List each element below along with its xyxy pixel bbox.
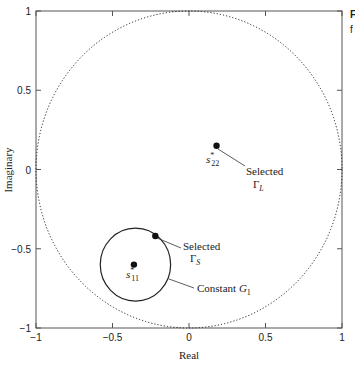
- clipped-margin-text-2: f: [350, 24, 353, 35]
- gamma-subscript: S: [196, 258, 200, 267]
- x-axis-label: Real: [179, 349, 199, 361]
- constant-word: Constant: [197, 282, 239, 294]
- marks: [36, 11, 342, 328]
- y-tick-label: 0.5: [17, 85, 31, 96]
- annotation-gamma-s-line1: Selected: [183, 240, 221, 252]
- leader-line-constant-g1: [169, 279, 194, 288]
- x-tick-label: 1: [339, 332, 345, 343]
- gamma-subscript: L: [258, 184, 264, 193]
- s22-subscript: 22: [211, 159, 219, 168]
- y-tick-label: 0: [25, 165, 31, 176]
- x-tick-label: 0.5: [259, 332, 273, 343]
- plot-frame: [36, 11, 342, 328]
- clipped-margin-text-1: F: [350, 9, 355, 20]
- x-tick-label: −0.5: [103, 332, 123, 343]
- y-tick-label: −1: [20, 323, 32, 334]
- point-s22-conjugate: [213, 143, 219, 149]
- annotation-gamma-s-line2: ΓS: [190, 252, 200, 267]
- x-tick-label: −1: [30, 332, 42, 343]
- leader-line-gamma-l: [218, 149, 245, 166]
- g-italic: G: [239, 282, 247, 294]
- ticks: −1−0.500.51−1−0.500.51: [11, 6, 345, 343]
- axes: [36, 11, 342, 328]
- point-label-s22: s*22: [206, 151, 219, 168]
- y-axis-label: Imaginary: [2, 147, 14, 193]
- smith-gain-chart: −1−0.500.51−1−0.500.51 Real Imaginary Se…: [0, 0, 355, 367]
- x-tick-label: 0: [186, 332, 192, 343]
- s11-subscript: 11: [131, 274, 139, 283]
- annotation-gamma-l-line1: Selected: [246, 165, 284, 177]
- g-subscript: 1: [247, 288, 251, 297]
- leader-line-gamma-s: [157, 238, 181, 248]
- annotation-gamma-l-line2: ΓL: [253, 178, 264, 193]
- annotation-constant-g1: Constant G1: [197, 282, 251, 297]
- point-label-s11: s*11: [126, 266, 139, 283]
- unit-circle: [36, 11, 342, 328]
- y-tick-label: 1: [25, 6, 31, 17]
- y-tick-label: −0.5: [11, 244, 31, 255]
